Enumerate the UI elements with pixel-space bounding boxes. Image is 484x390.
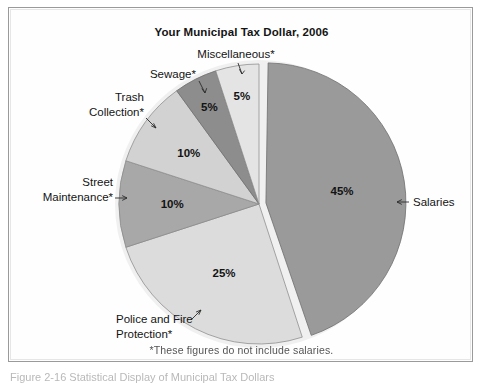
callout-label-trash-collection-line1: Trash (115, 91, 144, 103)
callout-label-police-and-fire-line1: Police and Fire (116, 313, 193, 325)
callout-label-trash-collection-line2: Collection* (89, 106, 144, 118)
slice-value-sewage: 5% (201, 101, 218, 113)
pie-chart: 45% 25% 10% 10% 5% 5% Miscellaneous* Sew… (9, 8, 474, 363)
slice-value-miscellaneous: 5% (234, 90, 251, 102)
callout-label-salaries: Salaries (413, 196, 455, 208)
callout-label-street-maintenance-line2: Maintenance* (43, 191, 114, 203)
page-caption-fragment: Figure 2-16 Statistical Display of Munic… (10, 371, 484, 383)
slice-value-police-and-fire: 25% (212, 267, 235, 279)
callout-label-street-maintenance-line1: Street (82, 176, 113, 188)
callout-label-sewage: Sewage* (150, 68, 197, 80)
slice-value-salaries: 45% (330, 185, 353, 197)
callout-label-police-and-fire-line2: Protection* (116, 328, 173, 340)
chart-footnote: *These figures do not include salaries. (9, 344, 474, 356)
figure-frame: Your Municipal Tax Dollar, 2006 45% 25% … (8, 7, 473, 362)
slice-value-street-maintenance: 10% (161, 198, 184, 210)
slice-value-trash-collection: 10% (177, 147, 200, 159)
callout-label-miscellaneous: Miscellaneous* (197, 48, 275, 60)
